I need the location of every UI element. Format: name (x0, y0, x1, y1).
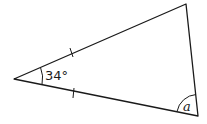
triangle-diagram: 34° a (0, 0, 207, 124)
angle-a-label: a (183, 99, 191, 114)
apex-angle-arc (41, 67, 43, 84)
equal-side-tick-upper (70, 48, 73, 57)
apex-angle-label: 34° (45, 68, 68, 83)
equal-side-tick-lower (73, 88, 74, 98)
triangle (14, 4, 198, 116)
